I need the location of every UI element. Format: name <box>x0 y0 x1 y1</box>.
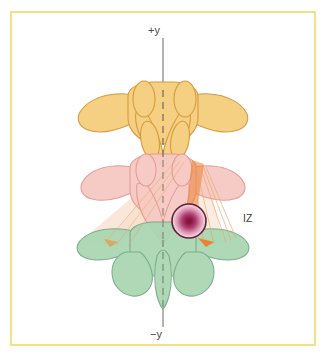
axis-label-positive-y: +y <box>148 24 160 36</box>
anatomical-diagram <box>0 0 326 362</box>
isocenter-label: IZ <box>243 212 253 224</box>
axis-label-negative-y: −y <box>150 328 162 340</box>
figure-root: +y −y IZ <box>0 0 326 362</box>
isocenter-dose-sphere <box>172 204 206 238</box>
